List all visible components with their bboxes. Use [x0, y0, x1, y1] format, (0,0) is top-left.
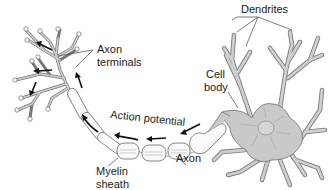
- label-action-potential: Action potential: [110, 108, 186, 128]
- label-dendrites: Dendrites: [241, 3, 289, 15]
- axon-terminals: [13, 27, 81, 121]
- neuron-diagram: Dendrites Axon terminals Cell body Actio…: [0, 0, 332, 190]
- label-axon-terminals-line1: Axon: [97, 43, 122, 55]
- label-axon: Axon: [176, 152, 201, 164]
- axon-myelin: [68, 88, 230, 161]
- label-myelin-sheath-line2: sheath: [96, 178, 129, 190]
- label-myelin-sheath-line1: Myelin: [96, 165, 128, 177]
- label-axon-terminals-line2: terminals: [97, 56, 142, 68]
- nucleus: [258, 121, 274, 135]
- label-cell-body-line1: Cell: [206, 68, 225, 80]
- label-cell-body-line2: body: [204, 81, 228, 93]
